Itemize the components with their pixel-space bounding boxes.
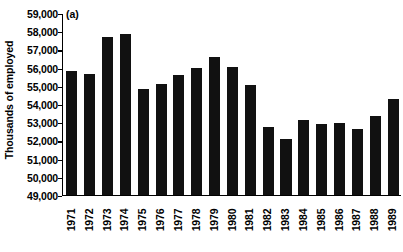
x-axis-tick-label-text: 1974 (118, 209, 130, 232)
bar-series (63, 14, 401, 195)
x-axis-tick-label: 1977 (171, 198, 185, 248)
bar (370, 116, 381, 195)
x-axis-tick-label-text: 1981 (243, 209, 255, 232)
x-axis-tick-label-text: 1983 (279, 209, 291, 232)
x-axis-tick-labels: 1971197219731974197519761977197819791980… (62, 198, 401, 252)
y-axis-title: Thousands of employed (0, 0, 18, 200)
x-axis-tick-label: 1982 (260, 198, 274, 248)
bar (66, 71, 77, 195)
y-axis-tick-label: 59,000 (27, 8, 58, 20)
x-axis-tick-label-text: 1976 (154, 209, 166, 232)
x-axis-tick-label-text: 1973 (101, 209, 113, 232)
x-axis-tick-label-text: 1972 (83, 209, 95, 232)
x-axis-tick-label: 1975 (135, 198, 149, 248)
y-axis-tick-mark (58, 160, 62, 161)
y-axis-tick-label: 50,000 (27, 172, 58, 184)
y-axis-tick-mark (58, 105, 62, 106)
bar (388, 99, 399, 195)
y-axis-tick-label: 55,000 (27, 81, 58, 93)
y-axis-tick-mark (58, 50, 62, 51)
x-axis-tick-label-text: 1979 (208, 209, 220, 232)
y-axis-tick-label: 57,000 (27, 44, 58, 56)
x-axis-tick-label-text: 1975 (136, 209, 148, 232)
x-axis-tick-label: 1983 (278, 198, 292, 248)
y-axis-tick-mark (58, 32, 62, 33)
x-axis-tick-label: 1981 (242, 198, 256, 248)
x-axis-tick-label-text: 1978 (190, 209, 202, 232)
bar (280, 139, 291, 195)
y-axis-tick-label: 52,000 (27, 135, 58, 147)
bar (138, 89, 149, 195)
y-axis-tick-labels: 59,00058,00057,00056,00055,00054,00053,0… (18, 0, 62, 252)
y-axis-tick-label: 51,000 (27, 154, 58, 166)
bar (245, 85, 256, 195)
y-axis-tick-mark (58, 69, 62, 70)
x-axis-tick-label: 1986 (332, 198, 346, 248)
bar (102, 37, 113, 195)
x-axis-tick-label: 1980 (225, 198, 239, 248)
x-axis-tick-label-text: 1989 (386, 209, 398, 232)
x-axis-tick-label: 1988 (367, 198, 381, 248)
y-axis-tick-label: 53,000 (27, 117, 58, 129)
panel-label: (a) (66, 8, 79, 20)
bar (209, 57, 220, 195)
x-axis-tick-label-text: 1988 (368, 209, 380, 232)
x-axis-tick-label-text: 1986 (333, 209, 345, 232)
y-axis-tick-label: 56,000 (27, 63, 58, 75)
x-axis-tick-label-text: 1982 (261, 209, 273, 232)
bar (173, 75, 184, 195)
y-axis-tick-label: 58,000 (27, 26, 58, 38)
y-axis-title-label: Thousands of employed (3, 41, 15, 160)
y-axis-tick-label: 54,000 (27, 99, 58, 111)
x-axis-tick-label: 1971 (64, 198, 78, 248)
y-axis-tick-mark (58, 87, 62, 88)
x-axis-tick-label: 1978 (189, 198, 203, 248)
bar (298, 120, 309, 195)
bar (84, 74, 95, 195)
x-axis-tick-label: 1972 (82, 198, 96, 248)
y-axis-tick-mark (58, 196, 62, 197)
y-axis-tick-label: 49,000 (27, 190, 58, 202)
x-axis-tick-label: 1974 (117, 198, 131, 248)
chart-figure: Thousands of employed 59,00058,00057,000… (0, 0, 403, 252)
bar (120, 34, 131, 195)
x-axis-tick-label-text: 1987 (350, 209, 362, 232)
x-axis-tick-label-text: 1984 (297, 209, 309, 232)
y-axis-tick-mark (58, 14, 62, 15)
y-axis-tick-mark (58, 178, 62, 179)
x-axis-tick-label-text: 1980 (226, 209, 238, 232)
bar (352, 129, 363, 195)
x-axis-tick-label: 1973 (100, 198, 114, 248)
bar (156, 84, 167, 195)
x-axis-tick-label: 1985 (314, 198, 328, 248)
bar (191, 68, 202, 195)
x-axis-tick-label: 1984 (296, 198, 310, 248)
x-axis-tick-label-text: 1985 (315, 209, 327, 232)
y-axis-tick-mark (58, 123, 62, 124)
plot-area (62, 14, 401, 196)
bar (334, 123, 345, 195)
bar (227, 67, 238, 195)
x-axis-tick-label-text: 1971 (65, 209, 77, 232)
y-axis-tick-mark (58, 141, 62, 142)
x-axis-tick-label: 1987 (349, 198, 363, 248)
x-axis-tick-label: 1989 (385, 198, 399, 248)
x-axis-tick-label: 1979 (207, 198, 221, 248)
bar (263, 127, 274, 195)
x-axis-tick-label-text: 1977 (172, 209, 184, 232)
bar (316, 124, 327, 195)
x-axis-tick-label: 1976 (153, 198, 167, 248)
